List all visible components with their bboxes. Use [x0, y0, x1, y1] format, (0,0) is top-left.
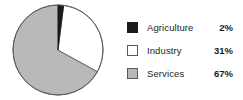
- legend-swatch-agriculture: [127, 22, 138, 33]
- pie-chart: [11, 3, 105, 97]
- legend-value-industry: 31%: [214, 45, 235, 56]
- legend-value-services: 67%: [214, 68, 235, 79]
- pie-chart-svg: [11, 3, 105, 97]
- legend-swatch-services: [127, 68, 138, 79]
- legend-item-industry: Industry 31%: [127, 39, 235, 62]
- legend-label-agriculture: Agriculture: [147, 22, 219, 33]
- legend-label-services: Services: [147, 68, 214, 79]
- legend-swatch-industry: [127, 45, 138, 56]
- pie-chart-figure: Agriculture 2% Industry 31% Services 67%: [0, 0, 243, 100]
- legend-item-services: Services 67%: [127, 62, 235, 85]
- legend-item-agriculture: Agriculture 2%: [127, 16, 235, 39]
- chart-legend: Agriculture 2% Industry 31% Services 67%: [127, 16, 235, 85]
- legend-label-industry: Industry: [147, 45, 214, 56]
- legend-value-agriculture: 2%: [219, 22, 235, 33]
